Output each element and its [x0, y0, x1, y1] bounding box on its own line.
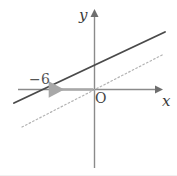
- x-axis-label: x: [162, 94, 170, 109]
- figure-bottom-edge: [0, 175, 177, 176]
- y-axis-label: y: [79, 8, 87, 23]
- coordinate-plane-figure: y x O −6: [0, 0, 177, 176]
- x-intercept-label: −6: [29, 72, 50, 86]
- figure-canvas: [0, 0, 177, 176]
- origin-label: O: [95, 91, 106, 105]
